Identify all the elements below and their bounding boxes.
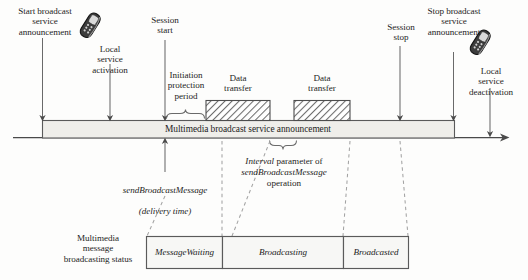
data-transfer-block-2 [294,101,350,121]
status-label-broadcasted: Broadcasted [343,247,409,257]
label-start-broadcast: Start broadcast service announcement [0,6,90,37]
broadcast-timeline-diagram: Start broadcast service announcement Loc… [0,0,528,280]
label-local-service-activation: Local service activation [72,44,148,75]
interval-operation-name: sendBroadcastMessage [241,167,327,177]
interval-keyword: Interval [245,156,274,166]
interval-tail-1: parameter of [274,156,322,166]
interval-tail-2: operation [267,178,301,188]
status-label-broadcasting: Broadcasting [222,247,344,257]
label-data-transfer-1: Data transfer [206,73,270,94]
announcement-bar-label: Multimedia broadcast service announcemen… [42,124,454,134]
annotation-send-broadcast-message: sendBroadcastMessage (delivery time) [104,175,226,216]
initiation-protection-brace [167,110,205,119]
data-transfer-blocks [206,101,350,121]
status-track-label: Multimedia message broadcasting status [52,233,144,264]
label-stop-broadcast: Stop broadcast service announcement [409,6,499,37]
data-transfer-block-1 [206,101,270,121]
label-local-service-deactivation: Local service deactivation [455,66,527,97]
status-label-message-waiting: MessageWaiting [146,247,223,257]
send-message-line2: (delivery time) [139,206,192,216]
send-message-line1: sendBroadcastMessage [123,185,208,195]
annotation-interval-parameter: Interval parameter of sendBroadcastMessa… [222,156,346,189]
label-session-start: Session start [134,15,196,36]
interval-parameter-brace [270,141,297,150]
label-data-transfer-2: Data transfer [290,73,354,94]
